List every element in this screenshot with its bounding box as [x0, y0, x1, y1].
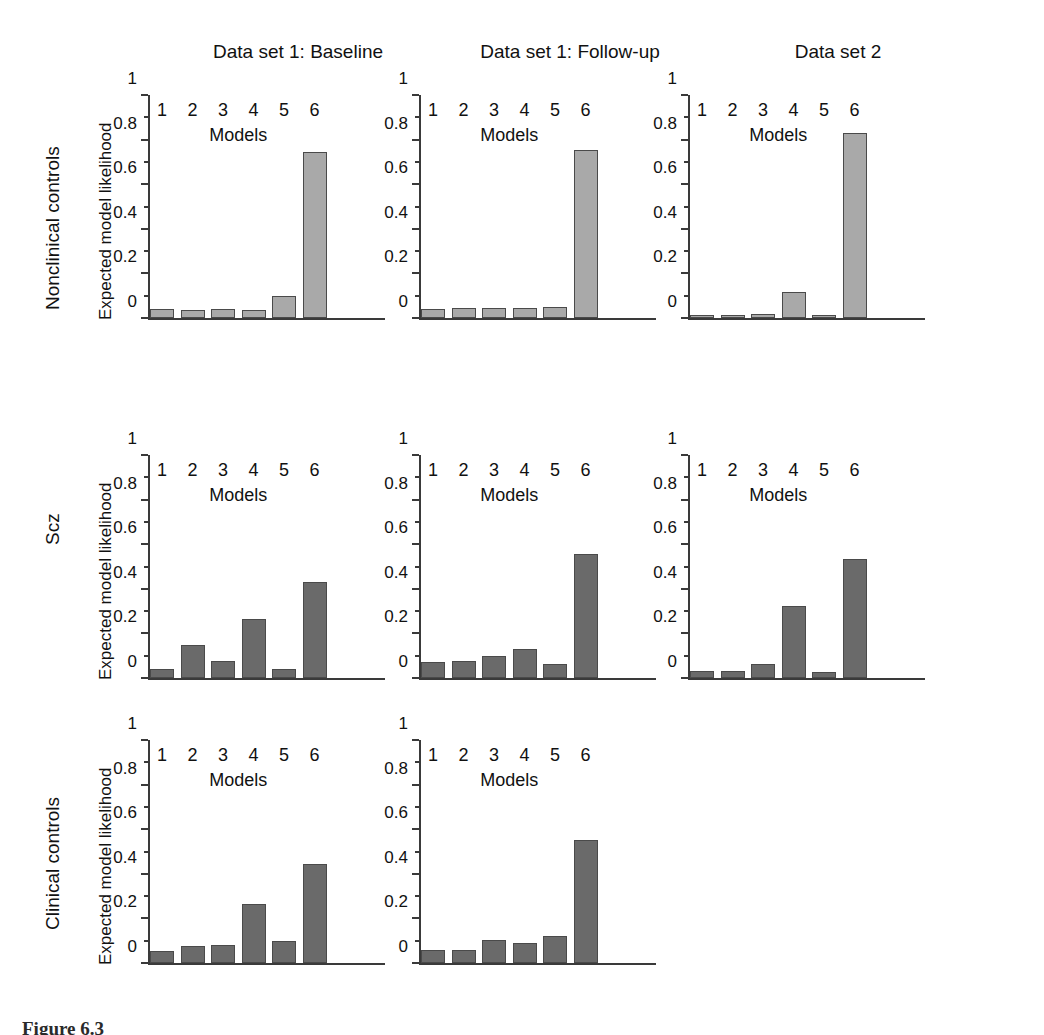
- plot-area: 00.20.40.60.81123456Models: [688, 95, 903, 320]
- y-axis-tick-label: 1: [128, 430, 137, 447]
- y-axis-tick-label: 0.4: [384, 204, 408, 221]
- y-axis-tick-label: 0.2: [384, 248, 408, 265]
- bar: [211, 661, 235, 678]
- row-label-nonclinical-controls-text: Nonclinical controls: [42, 146, 64, 310]
- bar: [574, 554, 598, 678]
- column-title-followup: Data set 1: Follow-up: [420, 40, 720, 64]
- x-axis-line: [419, 963, 656, 965]
- y-axis-tick-major: [141, 917, 148, 919]
- y-axis-tick-label: 0.2: [113, 248, 137, 265]
- figure-multipanel-bar-grid: Data set 1: Baseline Data set 1: Follow-…: [0, 0, 1044, 1035]
- row-label-clinical-controls-text: Clinical controls: [42, 797, 64, 930]
- y-axis-tick-label: 0.2: [384, 893, 408, 910]
- y-axis-tick-major: [141, 677, 148, 679]
- y-axis-tick-label: 0.6: [653, 159, 677, 176]
- bar: [150, 309, 174, 318]
- x-axis-line: [688, 678, 925, 680]
- y-axis-tick-major: [681, 228, 688, 230]
- bar: [690, 315, 714, 318]
- x-axis-title: Models: [419, 485, 600, 506]
- chart-panel: 00.20.40.60.81123456ModelsExpected model…: [148, 740, 363, 965]
- y-axis-tick-label: 0.4: [653, 204, 677, 221]
- bar: [543, 936, 567, 963]
- y-axis-tick-major: [412, 317, 419, 319]
- y-axis-tick-label: 0: [399, 293, 408, 310]
- row-label-scz-text: Scz: [42, 513, 64, 545]
- bar: [574, 150, 598, 318]
- y-axis-tick-label: 0.8: [653, 115, 677, 132]
- bar: [513, 943, 537, 963]
- y-axis-tick-major: [681, 317, 688, 319]
- y-axis-tick-major: [141, 499, 148, 501]
- bar: [843, 133, 867, 318]
- bar: [242, 619, 266, 678]
- y-axis-tick-major: [681, 94, 688, 96]
- y-axis-tick-label: 0.2: [653, 608, 677, 625]
- y-axis-tick-label: 0.2: [384, 608, 408, 625]
- x-axis-title: Models: [688, 125, 869, 146]
- y-axis-tick-label: 0.8: [653, 475, 677, 492]
- y-axis-tick-major: [141, 94, 148, 96]
- y-axis-tick-major: [412, 873, 419, 875]
- y-axis-tick-major: [681, 272, 688, 274]
- y-axis-tick-major: [141, 139, 148, 141]
- y-axis-tick-major: [412, 543, 419, 545]
- bar: [421, 950, 445, 963]
- y-axis-tick-major: [412, 228, 419, 230]
- y-axis-tick-major: [141, 454, 148, 456]
- y-axis-tick-major: [681, 454, 688, 456]
- y-axis-tick-label: 0.6: [653, 519, 677, 536]
- bar: [782, 292, 806, 318]
- y-axis-title: Expected model likelihood: [96, 122, 116, 320]
- y-axis-tick-major: [681, 543, 688, 545]
- bar: [272, 296, 296, 318]
- y-axis-tick-label: 0: [128, 938, 137, 955]
- plot-area: 00.20.40.60.81123456Models: [419, 95, 634, 320]
- column-title-baseline: Data set 1: Baseline: [148, 40, 448, 64]
- x-axis-title: Models: [148, 485, 329, 506]
- x-axis-line: [148, 678, 385, 680]
- y-axis-tick-label: 0.8: [384, 115, 408, 132]
- y-axis-tick-label: 0.2: [653, 248, 677, 265]
- y-axis-tick-label: 1: [399, 430, 408, 447]
- bar: [303, 582, 327, 678]
- y-axis-tick-major: [681, 677, 688, 679]
- y-axis-tick-major: [412, 828, 419, 830]
- x-axis-title: Models: [688, 485, 869, 506]
- bar: [181, 946, 205, 963]
- x-axis-title: Models: [148, 770, 329, 791]
- y-axis-tick-major: [141, 588, 148, 590]
- y-axis-tick-label: 1: [668, 70, 677, 87]
- y-axis-tick-label: 0.6: [384, 519, 408, 536]
- bar: [211, 945, 235, 963]
- y-axis-tick-major: [412, 962, 419, 964]
- y-axis-tick-major: [412, 632, 419, 634]
- y-axis-tick-label: 0.4: [113, 204, 137, 221]
- y-axis-tick-label: 0.4: [384, 564, 408, 581]
- bar: [812, 315, 836, 318]
- y-axis-tick-label: 0.8: [384, 760, 408, 777]
- x-axis-line: [688, 318, 925, 320]
- y-axis-title: Expected model likelihood: [96, 767, 116, 965]
- y-axis-tick-label: 1: [668, 430, 677, 447]
- bar: [721, 315, 745, 318]
- y-axis-tick-label: 0.4: [384, 849, 408, 866]
- bar: [272, 669, 296, 678]
- y-axis-tick-major: [412, 183, 419, 185]
- bar: [452, 950, 476, 963]
- plot-area: 00.20.40.60.81123456Models: [688, 455, 903, 680]
- y-axis-tick-label: 0.6: [113, 519, 137, 536]
- y-axis-tick-label: 0.4: [113, 849, 137, 866]
- y-axis-tick-major: [412, 588, 419, 590]
- bar: [543, 664, 567, 678]
- y-axis-tick-label: 0: [399, 653, 408, 670]
- y-axis-tick-major: [141, 873, 148, 875]
- y-axis-tick-label: 1: [128, 70, 137, 87]
- bar: [211, 309, 235, 318]
- y-axis-tick-label: 0.8: [113, 760, 137, 777]
- y-axis-tick-label: 0.2: [113, 893, 137, 910]
- y-axis-tick-major: [412, 272, 419, 274]
- y-axis-tick-major: [412, 784, 419, 786]
- y-axis-tick-major: [412, 454, 419, 456]
- bar: [482, 308, 506, 318]
